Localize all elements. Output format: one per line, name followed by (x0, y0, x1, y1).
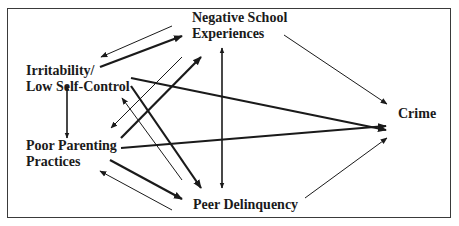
node-label-line1: Irritability/ (26, 63, 130, 79)
node-label-line2: Experiences (192, 26, 287, 42)
node-label-line1: Poor Parenting (26, 138, 117, 154)
edge-peer-to-parenting (100, 171, 172, 210)
edge-irritability-to-crime (131, 78, 386, 130)
node-label: Peer Delinquency (193, 197, 298, 213)
edge-nse-to-crime (284, 35, 387, 104)
edge-peer-to-irritability (122, 98, 182, 180)
node-peer-delinquency: Peer Delinquency (193, 197, 298, 213)
node-label-line2: Low Self-Control (26, 79, 130, 95)
node-crime: Crime (398, 106, 436, 122)
node-poor-parenting-practices: Poor Parenting Practices (26, 138, 117, 170)
node-irritability-low-self-control: Irritability/ Low Self-Control (26, 63, 130, 95)
node-label-line2: Practices (26, 154, 117, 170)
node-label: Crime (398, 106, 436, 122)
node-negative-school-experiences: Negative School Experiences (192, 10, 287, 42)
edge-parenting-to-nse (121, 57, 201, 138)
edge-irritability-to-peer (131, 86, 201, 188)
node-label-line1: Negative School (192, 10, 287, 26)
edge-peer-to-crime (305, 138, 387, 198)
